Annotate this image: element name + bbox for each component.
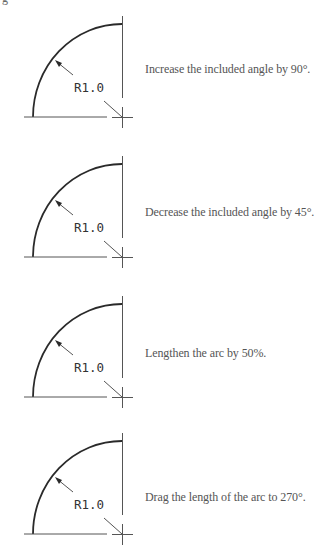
figure-caption: Increase the included angle by 90°. (145, 62, 310, 77)
arrowhead-icon (55, 60, 62, 67)
arrowhead-icon (55, 477, 62, 484)
radius-label: R1.0 (74, 80, 104, 95)
figure-caption: Drag the length of the arc to 270°. (145, 490, 306, 505)
arc-figure-4: R1.0 Drag the length of the arc to 270°. (0, 417, 334, 549)
arc-drawing: R1.0 (0, 417, 334, 549)
arc-figure-1: R1.0 Increase the included angle by 90°. (0, 0, 334, 140)
arc-figure-2: R1.0 Decrease the included angle by 45°. (0, 140, 334, 280)
figure-caption: Decrease the included angle by 45°. (145, 205, 314, 220)
arrowhead-icon (55, 200, 62, 207)
arrowhead-icon (55, 340, 62, 347)
radius-label: R1.0 (74, 360, 104, 375)
radius-label: R1.0 (74, 497, 104, 512)
figure-caption: Lengthen the arc by 50%. (145, 346, 266, 361)
arc-figure-3: R1.0 Lengthen the arc by 50%. (0, 280, 334, 420)
radius-label: R1.0 (74, 220, 104, 235)
